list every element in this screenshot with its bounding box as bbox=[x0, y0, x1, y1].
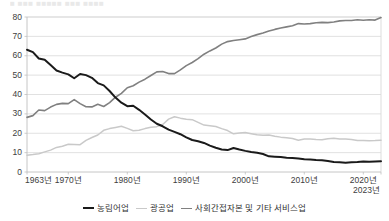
legend-item-2[interactable]: 광공업 bbox=[136, 203, 174, 213]
x-axis-tick-label: 1963년 bbox=[25, 176, 52, 185]
x-axis-tick-label: 2020년 bbox=[350, 176, 377, 185]
series-line-3 bbox=[27, 18, 381, 118]
x-axis-tick-label: 2000년 bbox=[232, 176, 259, 185]
chart-legend: 농림어업광공업사회간접자본 및 기타 서비스업 bbox=[0, 203, 389, 213]
y-axis-tick-label: 70 bbox=[2, 32, 22, 41]
legend-item-3[interactable]: 사회간접자본 및 기타 서비스업 bbox=[181, 203, 306, 213]
x-axis-end-label: 2023년 bbox=[353, 186, 380, 195]
legend-swatch-icon bbox=[136, 208, 147, 209]
y-axis-tick-label: 50 bbox=[2, 71, 22, 80]
x-axis-tick-label: 1980년 bbox=[114, 176, 141, 185]
legend-label: 농림어업 bbox=[97, 203, 129, 213]
legend-label: 사회간접자본 및 기타 서비스업 bbox=[195, 203, 306, 213]
x-axis-tick-label: 2010년 bbox=[291, 176, 318, 185]
series-line-1 bbox=[27, 50, 381, 163]
y-axis-tick-label: 0 bbox=[2, 168, 22, 177]
x-axis-tick-label: 1990년 bbox=[173, 176, 200, 185]
y-axis-tick-label: 30 bbox=[2, 109, 22, 118]
chart-container: ■ ■■■ ■■■■■ ■■■ ■■■■ 01020304050607080 1… bbox=[0, 0, 389, 221]
legend-item-1[interactable]: 농림어업 bbox=[83, 203, 129, 213]
legend-label: 광공업 bbox=[150, 203, 174, 213]
y-axis-tick-label: 80 bbox=[2, 13, 22, 22]
legend-swatch-icon bbox=[181, 208, 192, 209]
plot-area bbox=[0, 0, 389, 221]
y-axis-tick-label: 10 bbox=[2, 148, 22, 157]
y-axis-tick-label: 20 bbox=[2, 129, 22, 138]
y-axis-tick-label: 60 bbox=[2, 51, 22, 60]
y-axis-tick-label: 40 bbox=[2, 90, 22, 99]
series-line-2 bbox=[27, 117, 381, 155]
legend-swatch-icon bbox=[83, 207, 94, 209]
x-axis-tick-label: 1970년 bbox=[55, 176, 82, 185]
line-chart-svg bbox=[0, 0, 389, 221]
